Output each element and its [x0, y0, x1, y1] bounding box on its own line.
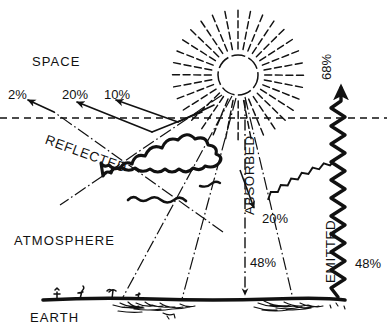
- flow-label-emitted: EMITTED: [324, 220, 338, 283]
- reflected-arrows: [28, 100, 214, 132]
- flow-label-absorbed: ABSORBED: [243, 135, 257, 215]
- sun-icon: [170, 8, 307, 143]
- value-absorbed-atmosphere: 20%: [262, 212, 288, 225]
- zone-label-space: SPACE: [32, 55, 81, 68]
- reflected-surface-ray: [54, 112, 223, 232]
- value-reflected-atmosphere: 10%: [104, 88, 130, 101]
- absorbed-atmosphere-wavy-arrow: [268, 160, 335, 199]
- value-emitted-surface: 48%: [355, 257, 381, 270]
- earth-surface: [43, 286, 345, 319]
- zone-label-earth: EARTH: [30, 311, 79, 324]
- zone-label-atmosphere: ATMOSPHERE: [14, 234, 115, 247]
- value-emitted-to-space: 68%: [320, 54, 333, 80]
- value-absorbed-surface: 48%: [250, 256, 276, 269]
- value-reflected-clouds: 20%: [62, 88, 88, 101]
- value-reflected-surface: 2%: [8, 88, 27, 101]
- energy-budget-diagram: SPACE ATMOSPHERE EARTH REFLECTED ABSORBE…: [0, 0, 387, 331]
